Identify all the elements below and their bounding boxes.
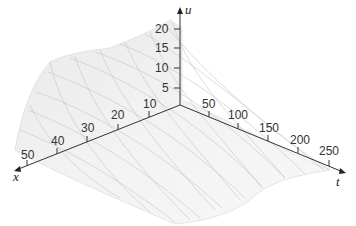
x-tick-40: 40 [51,134,65,148]
u-tick-20: 20 [155,22,169,36]
surface [15,20,330,224]
t-tick-100: 100 [228,108,248,122]
u-axis-arrow-icon [177,7,183,14]
u-tick-5: 5 [162,81,169,95]
t-axis-label: t [336,174,340,189]
t-tick-150: 150 [259,121,279,135]
u-tick-10: 10 [155,61,169,75]
x-tick-20: 20 [111,108,125,122]
t-axis-arrow-icon [339,168,346,174]
x-tick-10: 10 [143,97,157,111]
t-tick-250: 250 [319,144,339,158]
surface-plot: u x t 5 10 15 20 10 20 30 40 50 50 100 1… [0,0,356,226]
x-tick-30: 30 [81,121,95,135]
u-tick-15: 15 [155,41,169,55]
u-axis-label: u [185,2,192,17]
x-tick-50: 50 [21,148,35,162]
t-tick-200: 200 [290,133,310,147]
t-tick-50: 50 [202,97,216,111]
x-axis-label: x [12,169,19,184]
